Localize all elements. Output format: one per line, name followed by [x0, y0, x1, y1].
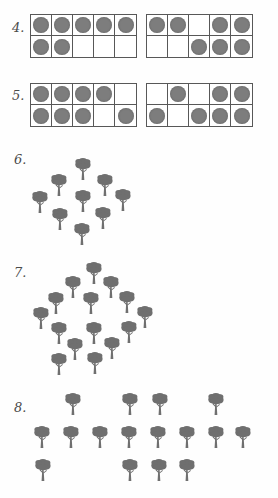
ten-frame-cell[interactable]: [147, 36, 168, 57]
problem-number-2: 5.: [12, 88, 24, 103]
ten-frame-row-top: [31, 84, 136, 105]
counter-dot: [234, 39, 250, 55]
ten-frame-cell[interactable]: [231, 36, 252, 57]
ten-frame-cell[interactable]: [94, 105, 115, 126]
ten-frame[interactable]: [30, 14, 137, 58]
counter-dot: [212, 17, 228, 33]
tree-icon: [233, 425, 253, 449]
tree-icon: [30, 190, 50, 214]
counter-dot: [118, 108, 134, 124]
ten-frame-cell[interactable]: [52, 84, 73, 105]
ten-frame-cell[interactable]: [189, 84, 210, 105]
ten-frame-row-top: [147, 15, 252, 36]
empty-cell-marker: [170, 108, 186, 124]
ten-frame[interactable]: [146, 14, 253, 58]
ten-frame-cell[interactable]: [231, 15, 252, 36]
tree-icon: [150, 392, 170, 416]
ten-frame-row-bottom: [31, 36, 136, 57]
ten-frame-cell[interactable]: [52, 105, 73, 126]
counter-dot: [33, 86, 49, 102]
ten-frame-cell[interactable]: [115, 36, 136, 57]
ten-frame-cell[interactable]: [147, 15, 168, 36]
problem-number-3: 6.: [14, 152, 26, 167]
counter-dot: [234, 86, 250, 102]
ten-frame-row-top: [31, 15, 136, 36]
ten-frame-cell[interactable]: [147, 105, 168, 126]
counter-dot: [96, 86, 112, 102]
ten-frame-cell[interactable]: [73, 84, 94, 105]
empty-cell-marker: [118, 39, 134, 55]
ten-frame-cell[interactable]: [189, 15, 210, 36]
counter-dot: [33, 17, 49, 33]
ten-frame-cell[interactable]: [31, 84, 52, 105]
counter-dot: [170, 86, 186, 102]
ten-frame-row-top: [147, 84, 252, 105]
ten-frame-cell[interactable]: [31, 15, 52, 36]
counter-dot: [33, 39, 49, 55]
ten-frame-cell[interactable]: [210, 84, 231, 105]
counter-dot: [191, 108, 207, 124]
ten-frame-cell[interactable]: [94, 36, 115, 57]
tree-icon: [117, 290, 137, 314]
empty-cell-marker: [149, 39, 165, 55]
empty-cell-marker: [170, 39, 186, 55]
ten-frame-row-bottom: [31, 105, 136, 126]
ten-frame-cell[interactable]: [168, 15, 189, 36]
ten-frame-cell[interactable]: [52, 36, 73, 57]
ten-frame-cell[interactable]: [94, 15, 115, 36]
tree-icon: [93, 206, 113, 230]
ten-frame[interactable]: [146, 83, 253, 127]
ten-frame-cell[interactable]: [231, 105, 252, 126]
tree-icon: [33, 458, 53, 482]
counter-dot: [234, 108, 250, 124]
ten-frame-row-bottom: [147, 36, 252, 57]
ten-frame-cell[interactable]: [115, 15, 136, 36]
ten-frame-cell[interactable]: [168, 36, 189, 57]
tree-icon: [73, 157, 93, 181]
tree-icon: [120, 392, 140, 416]
ten-frame-cell[interactable]: [231, 84, 252, 105]
ten-frame-cell[interactable]: [210, 36, 231, 57]
tree-icon: [149, 458, 169, 482]
tree-icon: [90, 425, 110, 449]
tree-icon: [84, 321, 104, 345]
empty-cell-marker: [149, 86, 165, 102]
ten-frame-cell[interactable]: [189, 36, 210, 57]
counter-dot: [149, 17, 165, 33]
problem-number-4: 7.: [14, 265, 26, 280]
counter-dot: [234, 17, 250, 33]
ten-frame-cell[interactable]: [31, 105, 52, 126]
ten-frame-cell[interactable]: [189, 105, 210, 126]
empty-cell-marker: [96, 108, 112, 124]
ten-frame-cell[interactable]: [115, 84, 136, 105]
tree-icon: [148, 425, 168, 449]
counter-dot: [96, 17, 112, 33]
tree-icon: [85, 351, 105, 375]
tree-icon: [50, 207, 70, 231]
tree-icon: [32, 425, 52, 449]
ten-frame-cell[interactable]: [210, 15, 231, 36]
ten-frame-cell[interactable]: [168, 105, 189, 126]
counter-dot: [75, 108, 91, 124]
ten-frame-cell[interactable]: [94, 84, 115, 105]
counter-dot: [212, 108, 228, 124]
ten-frame-cell[interactable]: [147, 84, 168, 105]
ten-frame-cell[interactable]: [73, 15, 94, 36]
ten-frame-cell[interactable]: [73, 105, 94, 126]
ten-frame-cell[interactable]: [73, 36, 94, 57]
tree-icon: [102, 336, 122, 360]
ten-frame-cell[interactable]: [31, 36, 52, 57]
tree-icon: [61, 425, 81, 449]
ten-frame-cell[interactable]: [168, 84, 189, 105]
tree-icon: [63, 392, 83, 416]
ten-frame-pair: [30, 83, 253, 127]
tree-icon: [119, 320, 139, 344]
ten-frame-cell[interactable]: [115, 105, 136, 126]
problem-number-5: 8.: [14, 400, 26, 415]
empty-cell-marker: [191, 86, 207, 102]
empty-cell-marker: [75, 39, 91, 55]
ten-frame[interactable]: [30, 83, 137, 127]
ten-frame-cell[interactable]: [210, 105, 231, 126]
ten-frame-cell[interactable]: [52, 15, 73, 36]
ten-frame-pair: [30, 14, 253, 58]
